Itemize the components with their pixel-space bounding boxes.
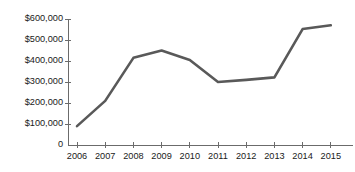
x-axis-tick-label: 2009 — [151, 151, 171, 161]
x-axis-tick-label: 2006 — [67, 151, 87, 161]
x-axis-tick-label: 2014 — [292, 151, 312, 161]
y-axis-tick-label: $400,000 — [25, 55, 63, 65]
x-axis-tick-label: 2007 — [95, 151, 115, 161]
y-axis-tick-label: $500,000 — [25, 34, 63, 44]
y-axis-tick-label: 0 — [58, 139, 63, 149]
x-axis-tick-label: 2010 — [180, 151, 200, 161]
y-axis-tick-label: $100,000 — [25, 118, 63, 128]
x-axis-tick-label: 2012 — [236, 151, 256, 161]
x-axis-tick-labels: 2006200720082009201020112012201320142015 — [67, 151, 341, 161]
y-axis-tick-label: $200,000 — [25, 97, 63, 107]
y-axis-tick-labels: 0$100,000$200,000$300,000$400,000$500,00… — [25, 13, 63, 149]
y-axis-tick-label: $300,000 — [25, 76, 63, 86]
x-axis-tick-label: 2015 — [321, 151, 341, 161]
data-series-line — [77, 25, 331, 126]
line-chart: 0$100,000$200,000$300,000$400,000$500,00… — [0, 0, 355, 172]
x-axis-tick-label: 2008 — [123, 151, 143, 161]
y-axis-tick-label: $600,000 — [25, 13, 63, 23]
x-axis-tick-label: 2013 — [264, 151, 284, 161]
x-axis-tick-label: 2011 — [208, 151, 228, 161]
chart-canvas: 0$100,000$200,000$300,000$400,000$500,00… — [0, 0, 355, 172]
